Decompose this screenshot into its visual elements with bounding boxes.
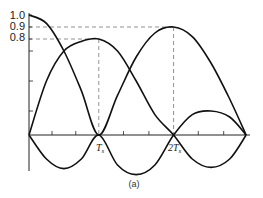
svg-text:Ts: Ts — [96, 142, 105, 155]
chart: 1.0 0.9 0.8 Ts 2Ts (a) — [0, 0, 263, 198]
axes — [29, 13, 250, 171]
series-line-curve-2 — [29, 38, 246, 167]
y-tick-label-0.8: 0.8 — [10, 31, 25, 43]
labels: 1.0 0.9 0.8 Ts 2Ts (a) — [10, 9, 182, 189]
series-line-curve-1 — [29, 15, 246, 135]
figure-caption: (a) — [129, 179, 140, 189]
x-tick-label-2ts-sub: s — [179, 147, 182, 155]
x-tick-label-ts-sub: s — [102, 147, 105, 155]
series-line-curve-3 — [29, 111, 246, 175]
x-tick-label-ts: Ts — [96, 142, 105, 155]
reference-lines — [29, 27, 174, 135]
ticks — [29, 15, 245, 135]
series — [29, 15, 246, 175]
